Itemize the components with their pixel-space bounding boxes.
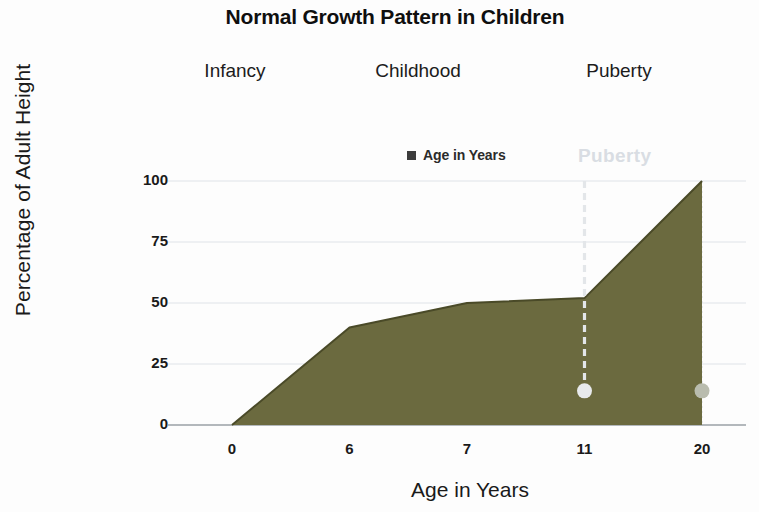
series-line [232,181,702,425]
y-tick-label: 0 [120,415,168,432]
y-tick-label: 100 [120,171,168,188]
chart-legend: Age in Years [407,145,506,165]
y-tick-label: 75 [120,232,168,249]
y-axis-title: Percentage of Adult Height [11,20,35,360]
legend-label: Age in Years [423,147,506,163]
stage-label-childhood: Childhood [347,60,489,82]
area-fill [232,181,702,425]
x-tick-label: 7 [437,440,497,457]
data-point-marker [577,383,592,398]
y-tick-label: 50 [120,293,168,310]
data-point-marker [695,383,710,398]
stage-label-puberty: Puberty [563,60,675,82]
chart-title: Normal Growth Pattern in Children [95,5,695,29]
faint-puberty-annotation: Puberty [578,145,652,167]
x-tick-label: 6 [320,440,380,457]
x-tick-label: 0 [202,440,262,457]
square-marker-icon [407,151,416,160]
y-tick-label: 25 [120,354,168,371]
growth-chart: Percentage of Adult Height Normal Growth… [0,0,759,512]
x-tick-label: 11 [555,440,615,457]
x-axis-title: Age in Years [230,478,710,502]
x-tick-label: 20 [672,440,732,457]
stage-label-infancy: Infancy [175,60,295,82]
